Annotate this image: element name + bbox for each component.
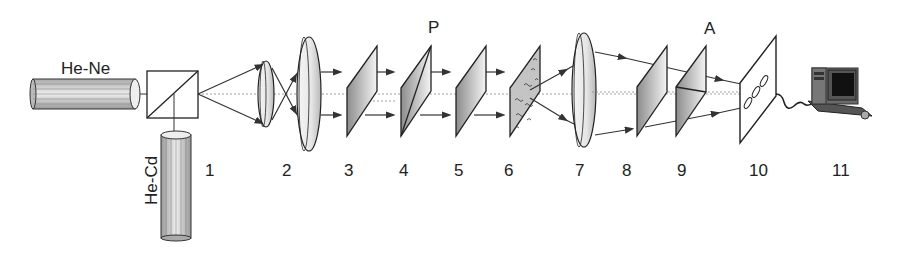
optical-setup-diagram: He-Ne He-Cd [0,0,899,254]
component-number-8: 8 [622,161,631,180]
diagram-canvas: He-Ne He-Cd [0,0,899,254]
plate-3 [347,46,377,136]
ccd-screen [740,36,776,143]
plate-4-polarizer [401,46,431,136]
collimating-lens [297,37,321,151]
beam-splitter-cube [147,71,198,131]
he-ne-laser [30,79,147,109]
plate-6-sample [510,46,540,136]
component-number-9: 9 [677,161,686,180]
component-number-7: 7 [575,161,584,180]
computer-icon [808,68,872,119]
he-ne-label: He-Ne [61,59,110,78]
he-cd-label: He-Cd [142,156,161,205]
component-number-11: 11 [832,161,850,180]
component-number-1: 1 [205,161,214,180]
plate-9-analyzer [676,46,706,136]
component-number-10: 10 [749,161,768,180]
polarizer-marker: P [428,18,439,37]
component-number-4: 4 [399,161,408,180]
component-number-6: 6 [504,161,513,180]
component-number-2: 2 [282,161,291,180]
plate-5 [456,46,486,136]
he-cd-laser [161,131,191,241]
imaging-lens [572,33,596,147]
plate-8 [637,46,667,136]
component-number-3: 3 [344,161,353,180]
component-number-5: 5 [454,161,463,180]
small-lens [258,61,274,127]
analyzer-marker: A [704,19,716,38]
